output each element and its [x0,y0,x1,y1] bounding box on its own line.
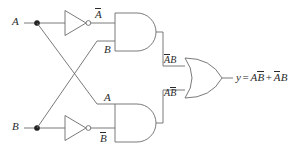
overbar-b-bottom: B [100,132,107,144]
inverter-top-triangle [65,11,86,36]
and-gate-top-body [115,13,156,51]
output-term1-b-bar: B [257,71,264,83]
circuit-diagram-canvas: A B A B A B AB AB y=AB+AB [0,0,302,152]
output-term2-b: B [281,71,288,83]
label-and-top-input-b: B [104,44,111,55]
inverter-bottom-triangle [65,116,86,141]
wire-cross-b-to-top [37,41,97,128]
label-signal-b-bar: B [100,132,107,144]
and-gate-bottom-body [115,104,156,142]
output-term2-a-bar: A [274,71,281,83]
overbar-a-term1: A [164,54,170,65]
label-input-a: A [12,16,19,27]
or-gate-body [185,58,222,98]
label-signal-a-bar: A [95,8,102,20]
inverter-bottom-bubble [86,126,91,131]
label-and-bottom-output: AB [164,87,177,98]
output-plus: + [264,71,273,83]
output-equals: = [241,71,250,83]
wire-cross-a-to-bottom [37,23,97,104]
label-input-b: B [12,121,19,132]
label-and-bottom-input-a: A [104,92,111,103]
inverter-top-bubble [86,21,91,26]
label-output-expression: y=AB+AB [236,71,288,83]
overbar-a-top: A [95,8,102,20]
term-b-plain: B [170,54,176,65]
label-and-top-output: AB [164,54,177,65]
output-term1-a: A [251,71,258,83]
overbar-b-term2: B [170,87,176,98]
